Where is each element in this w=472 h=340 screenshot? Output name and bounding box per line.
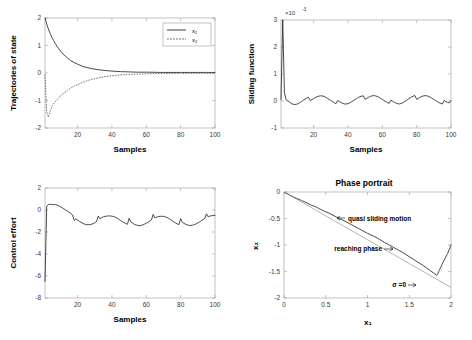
control-xlabel: Samples — [114, 315, 147, 324]
ytick-label: -8 — [35, 294, 41, 301]
legend-box — [163, 23, 211, 46]
xtick-label: 2 — [449, 301, 453, 308]
phase-title: Phase portrait — [335, 178, 392, 188]
series-u — [45, 204, 215, 281]
xtick-label: 100 — [446, 131, 457, 138]
phase-xlabel: x₁ — [364, 318, 372, 327]
subplot-trajectories-of-state: 20406080100 -2-1012 x₁ x₂ Samples Trajec… — [0, 0, 236, 170]
phase-ytick-labels: -2-1.5-1-0.50 — [269, 188, 281, 301]
annotation-quasi-sliding-motion: quasi sliding motion — [337, 215, 411, 223]
control-svg: 20406080100 -8-6-4-202 Samples Control e… — [0, 170, 236, 340]
xtick-label: 100 — [210, 301, 221, 308]
sliding-plot-frame — [281, 20, 451, 128]
ytick-label: 0 — [37, 206, 41, 213]
sliding-ylabel: Sliding function — [247, 44, 256, 105]
ytick-label: 2 — [37, 184, 41, 191]
ytick-label: 2 — [273, 43, 277, 50]
phase-ylabel: x₂ — [251, 242, 260, 250]
series-sigma — [281, 20, 451, 105]
control-plot-frame — [45, 188, 215, 298]
ytick-label: -1 — [271, 124, 277, 131]
phase-xtick-labels: 00.511.52 — [282, 301, 453, 308]
ytick-label: 0 — [273, 97, 277, 104]
xtick-label: 20 — [74, 301, 82, 308]
sliding-axes: 20406080100 -10123 — [271, 16, 457, 138]
xtick-label: 40 — [344, 131, 352, 138]
ytick-label: 1 — [37, 42, 41, 49]
xtick-label: 60 — [143, 131, 151, 138]
states-xlabel: Samples — [114, 145, 147, 154]
phase-annotations: quasi sliding motion reaching phase σ =0 — [334, 215, 416, 289]
ytick-label: -1 — [274, 241, 280, 248]
quasi-sliding-label: quasi sliding motion — [348, 215, 411, 223]
xtick-label: 80 — [177, 131, 185, 138]
xtick-label: 60 — [143, 301, 151, 308]
control-tickmarks — [45, 188, 215, 298]
xtick-label: 1 — [366, 301, 370, 308]
sliding-exponent-power: -3 — [302, 7, 307, 12]
ytick-label: -0.5 — [269, 215, 281, 222]
ytick-label: -1 — [35, 97, 41, 104]
ytick-label: 0 — [276, 188, 280, 195]
legend-label-x2: x₂ — [192, 37, 198, 43]
xtick-label: 100 — [210, 131, 221, 138]
annotation-reaching-phase: reaching phase — [334, 245, 393, 253]
reaching-phase-arrowhead-bottom — [390, 249, 393, 251]
figure-panel: 20406080100 -2-1012 x₁ x₂ Samples Trajec… — [0, 0, 472, 340]
ytick-label: -2 — [274, 294, 280, 301]
ytick-label: -2 — [35, 124, 41, 131]
ytick-label: -4 — [35, 250, 41, 257]
subplot-control-effort: 20406080100 -8-6-4-202 Samples Control e… — [0, 170, 236, 340]
series-trajectory — [285, 193, 451, 276]
control-xtick-labels: 20406080100 — [74, 301, 221, 308]
legend-label-x1: x₁ — [192, 28, 197, 34]
xtick-label: 80 — [177, 301, 185, 308]
reaching-phase-label: reaching phase — [334, 245, 382, 253]
ytick-label: 0 — [37, 69, 41, 76]
ytick-label: 2 — [37, 14, 41, 21]
xtick-label: 0.5 — [321, 301, 330, 308]
sliding-exponent-base: ×10 — [285, 10, 296, 16]
states-svg: 20406080100 -2-1012 x₁ x₂ Samples Trajec… — [0, 0, 236, 170]
states-xtick-labels: 20406080100 — [74, 131, 221, 138]
sigma-zero-label: σ =0 — [392, 281, 406, 288]
subplot-sliding-function: 20406080100 -10123 ×10 -3 Samples Slidin… — [236, 0, 472, 170]
states-ytick-labels: -2-1012 — [35, 14, 41, 131]
xtick-label: 20 — [74, 131, 82, 138]
sliding-xlabel: Samples — [350, 145, 383, 154]
xtick-label: 1.5 — [405, 301, 414, 308]
control-ytick-labels: -8-6-4-202 — [35, 184, 41, 301]
xtick-label: 0 — [282, 301, 286, 308]
xtick-label: 60 — [379, 131, 387, 138]
xtick-label: 20 — [310, 131, 318, 138]
xtick-label: 40 — [108, 131, 116, 138]
subplot-phase-portrait: Phase portrait 00.511.52 -2-1.5-1-0.50 q… — [236, 170, 472, 340]
states-ylabel: Trajectories of state — [9, 35, 18, 111]
ytick-label: -1.5 — [269, 268, 281, 275]
control-axes: 20406080100 -8-6-4-202 — [35, 184, 221, 308]
phase-svg: Phase portrait 00.511.52 -2-1.5-1-0.50 q… — [236, 170, 472, 340]
series-x₂ — [45, 73, 215, 117]
xtick-label: 40 — [108, 301, 116, 308]
ytick-label: 3 — [273, 16, 277, 23]
ytick-label: 1 — [273, 70, 277, 77]
ytick-label: -6 — [35, 272, 41, 279]
sliding-svg: 20406080100 -10123 ×10 -3 Samples Slidin… — [236, 0, 472, 170]
xtick-label: 80 — [413, 131, 421, 138]
states-legend: x₁ x₂ — [163, 23, 211, 46]
sliding-data-lines — [281, 20, 451, 105]
annotation-sigma-zero: σ =0 — [392, 281, 416, 288]
sliding-tickmarks — [281, 20, 451, 128]
sliding-ytick-labels: -10123 — [271, 16, 277, 131]
sliding-exponent: ×10 -3 — [285, 7, 307, 16]
phase-data-lines — [284, 192, 451, 287]
control-ylabel: Control effort — [9, 217, 18, 268]
control-data-lines — [45, 204, 215, 281]
ytick-label: -2 — [35, 228, 41, 235]
sliding-xtick-labels: 20406080100 — [310, 131, 457, 138]
series-sliding-surface — [284, 192, 451, 287]
